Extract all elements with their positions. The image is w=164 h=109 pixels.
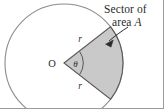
- circle-sector-diagram: O θ r r Sector of area A: [0, 0, 164, 109]
- right-edge-rule: [163, 0, 164, 109]
- bottom-edge-rule: [0, 108, 164, 109]
- radius-label-lower: r: [78, 81, 82, 91]
- callout-area-word: area: [112, 16, 135, 28]
- callout-area-variable: A: [134, 16, 143, 28]
- figure-container: O θ r r Sector of area A: [0, 0, 164, 109]
- callout-line-1: Sector of: [104, 3, 147, 15]
- radius-label-upper: r: [78, 34, 82, 44]
- callout-line-2: area A: [112, 16, 143, 28]
- angle-theta-label: θ: [73, 59, 78, 69]
- center-point-label: O: [48, 58, 56, 69]
